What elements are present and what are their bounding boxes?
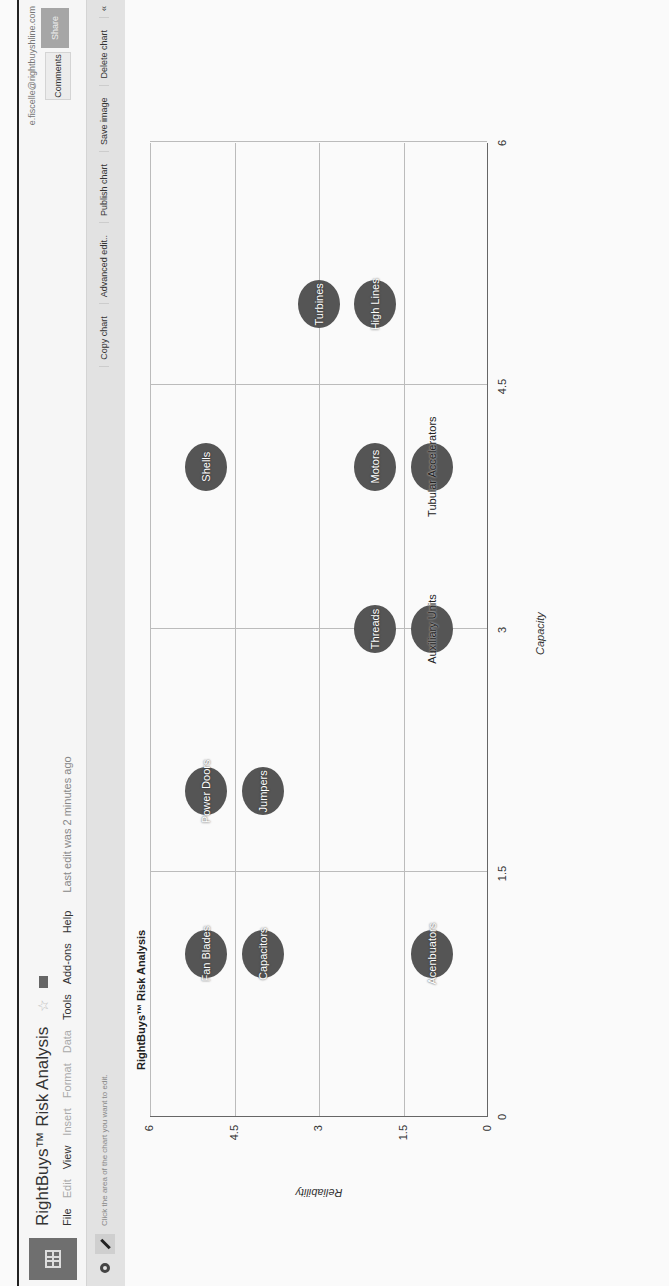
data-point-label: Capacitors [257,927,269,980]
data-point-bubble[interactable]: Power Doors [185,767,227,815]
x-tick-label: 1.5 [496,859,508,889]
collapse-chevron-icon[interactable]: « [99,6,109,18]
y-tick-label: 6 [143,1125,155,1149]
data-point-bubble[interactable]: Acenbuators [411,930,453,978]
x-tick-label: 0 [496,1102,508,1132]
x-gridline [150,141,487,142]
y-axis-label[interactable]: Reliability [295,1187,342,1199]
folder-icon[interactable] [39,976,48,988]
menu-edit[interactable]: Edit [61,1179,73,1198]
data-point-bubble[interactable]: Turbines [298,280,340,328]
data-point-label: Power Doors [200,760,212,824]
data-point-label: Auxiliary Units [426,594,438,664]
chart-plot-area[interactable]: Fan BladesCapacitorsAcenbuatorsPower Doo… [150,143,488,1117]
y-tick-label: 0 [481,1125,493,1149]
y-tick-label: 3 [312,1125,324,1149]
menu-format[interactable]: Format [61,1063,73,1098]
star-icon[interactable]: ☆ [35,999,51,1012]
user-email[interactable]: e.fiscelle@rightbuyshline.com [27,6,37,125]
data-point-bubble[interactable]: Threads [354,605,396,653]
x-tick-label: 4.5 [496,372,508,402]
x-tick-label: 3 [496,615,508,645]
y-gridline [150,143,151,1116]
menu-tools[interactable]: Tools [61,994,73,1020]
menu-data[interactable]: Data [61,1030,73,1053]
document-title-row: RightBuys™ Risk Analysis ☆ [33,976,53,1226]
data-point-label: Shells [200,452,212,482]
y-gridline [404,143,405,1116]
data-point-bubble[interactable]: Jumpers [242,767,284,815]
data-point-bubble[interactable]: Tubular Accelerators [411,443,453,491]
menu-file[interactable]: File [61,1208,73,1226]
menu-bar: File Edit View Insert Format Data Tools … [61,756,73,1226]
spreadsheet-page: RightBuys™ Risk Analysis ☆ File Edit Vie… [0,0,669,1286]
menu-addons[interactable]: Add-ons [61,943,73,984]
data-point-bubble[interactable]: Capacitors [242,930,284,978]
delete-chart-button[interactable]: Delete chart [99,30,109,86]
data-point-label: Acenbuators [426,923,438,985]
x-tick-label: 6 [496,128,508,158]
y-tick-label: 1.5 [397,1125,409,1149]
x-axis-label[interactable]: Capacity [534,612,546,655]
copy-chart-button[interactable]: Copy chart [99,316,109,367]
data-point-label: Motors [369,450,381,484]
y-gridline [235,143,236,1116]
menu-view[interactable]: View [61,1146,73,1170]
document-title[interactable]: RightBuys™ Risk Analysis [33,1027,52,1226]
chart-toolbar: Click the area of the chart you want to … [86,0,125,1286]
data-point-label: Jumpers [257,770,269,812]
settings-icon[interactable] [95,1258,115,1278]
data-point-label: Threads [369,609,381,649]
menu-help[interactable]: Help [61,911,73,934]
data-point-label: Fan Blades [200,926,212,982]
y-tick-label: 4.5 [228,1125,240,1149]
edit-hint: Click the area of the chart you want to … [100,1074,109,1226]
last-edit-status[interactable]: Last edit was 2 minutes ago [61,756,73,892]
data-point-bubble[interactable]: Shells [185,443,227,491]
data-point-label: Tubular Accelerators [426,416,438,516]
share-button[interactable]: Share [41,8,69,48]
pencil-icon[interactable] [95,1234,115,1254]
data-point-label: Turbines [313,283,325,325]
comments-button[interactable]: Comments [45,52,71,100]
publish-chart-button[interactable]: Publish chart [99,164,109,223]
chart-title[interactable]: RightBuys™ Risk Analysis [135,930,147,1070]
chart-actions: Copy chart Advanced edit.. Publish chart… [99,6,109,367]
sheets-home-icon[interactable] [29,1238,77,1280]
data-point-bubble[interactable]: Auxiliary Units [411,605,453,653]
data-point-bubble[interactable]: Fan Blades [185,930,227,978]
save-image-button[interactable]: Save image [99,98,109,153]
data-point-bubble[interactable]: High Lines [354,280,396,328]
data-point-bubble[interactable]: Motors [354,443,396,491]
advanced-edit-button[interactable]: Advanced edit.. [99,235,109,304]
data-point-label: High Lines [369,278,381,330]
menu-insert[interactable]: Insert [61,1108,73,1136]
